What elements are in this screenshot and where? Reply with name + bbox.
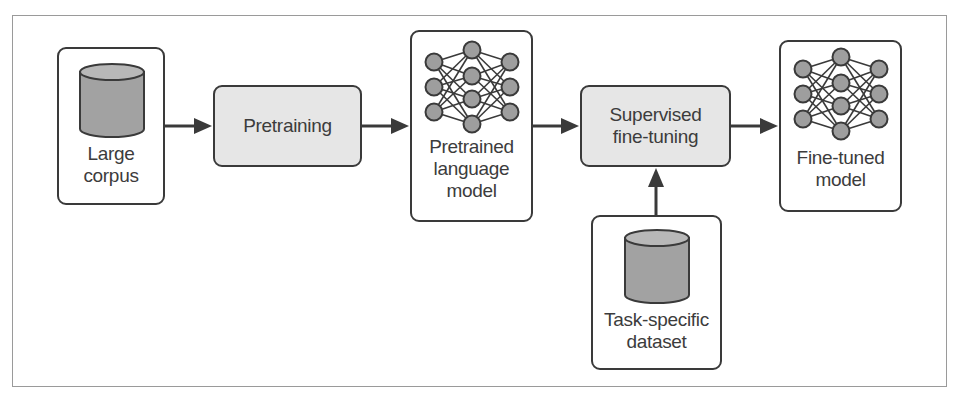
label-line: model <box>781 169 900 191</box>
node-large-corpus: Large corpus <box>57 47 165 205</box>
label-line: fine-tuning <box>582 126 729 148</box>
neural-network-icon <box>412 38 531 146</box>
label-line: corpus <box>59 165 163 187</box>
arrow-dataset-to-finetuning <box>648 168 664 215</box>
label-line: dataset <box>593 331 720 353</box>
label-line: Fine-tuned <box>781 147 900 169</box>
database-cylinder-icon <box>593 225 720 315</box>
label-line: Task-specific <box>593 309 720 331</box>
node-label: Pretraining <box>215 115 360 137</box>
arrow-pretraining-to-model <box>362 118 409 134</box>
arrow-corpus-to-pretraining <box>165 118 212 134</box>
node-label: Task-specific dataset <box>593 309 720 353</box>
label-line: Supervised <box>582 104 729 126</box>
label-line: Pretraining <box>215 115 360 137</box>
node-pretraining: Pretraining <box>213 85 362 167</box>
node-supervised-fine-tuning: Supervised fine-tuning <box>580 85 731 167</box>
label-line: model <box>412 180 531 202</box>
node-task-specific-dataset: Task-specific dataset <box>591 215 722 370</box>
node-label: Large corpus <box>59 143 163 187</box>
node-label: Pretrained language model <box>412 136 531 202</box>
label-line: Large <box>59 143 163 165</box>
node-pretrained-language-model: Pretrained language model <box>410 30 533 222</box>
node-label: Fine-tuned model <box>781 147 900 191</box>
arrow-model-to-finetuning <box>533 118 579 134</box>
database-cylinder-icon <box>59 59 163 149</box>
node-fine-tuned-model: Fine-tuned model <box>779 40 902 212</box>
label-line: language <box>412 158 531 180</box>
node-label: Supervised fine-tuning <box>582 104 729 148</box>
arrow-finetuning-to-finetuned <box>731 118 778 134</box>
neural-network-icon <box>781 45 900 153</box>
label-line: Pretrained <box>412 136 531 158</box>
